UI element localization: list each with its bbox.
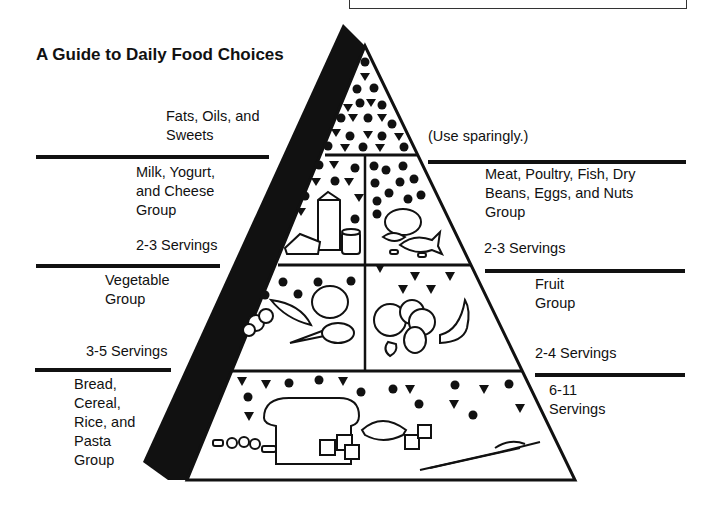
meat-servings: 2-3 Servings: [484, 239, 565, 258]
divider-meat-fruit: [485, 269, 685, 273]
divider-fats-meat: [428, 160, 686, 164]
divider-fats-milk: [36, 155, 269, 159]
bread-label: Bread, Cereal, Rice, and Pasta Group: [74, 375, 135, 470]
milk-label: Milk, Yogurt, and Cheese Group: [136, 163, 215, 220]
fats-servings: (Use sparingly.): [428, 127, 528, 146]
vegetable-label: Vegetable Group: [105, 271, 170, 309]
vegetable-servings: 3-5 Servings: [86, 342, 167, 361]
fruit-label: Fruit Group: [535, 275, 575, 313]
fats-label: Fats, Oils, and Sweets: [166, 107, 259, 145]
divider-fruit-bread: [535, 373, 685, 377]
milk-servings: 2-3 Servings: [136, 236, 217, 255]
divider-vegetable-bread: [35, 368, 171, 372]
fruit-servings: 2-4 Servings: [535, 344, 616, 363]
meat-label: Meat, Poultry, Fish, Dry Beans, Eggs, an…: [485, 165, 635, 222]
bread-servings: 6-11 Servings: [549, 381, 605, 419]
divider-milk-vegetable: [36, 264, 220, 268]
